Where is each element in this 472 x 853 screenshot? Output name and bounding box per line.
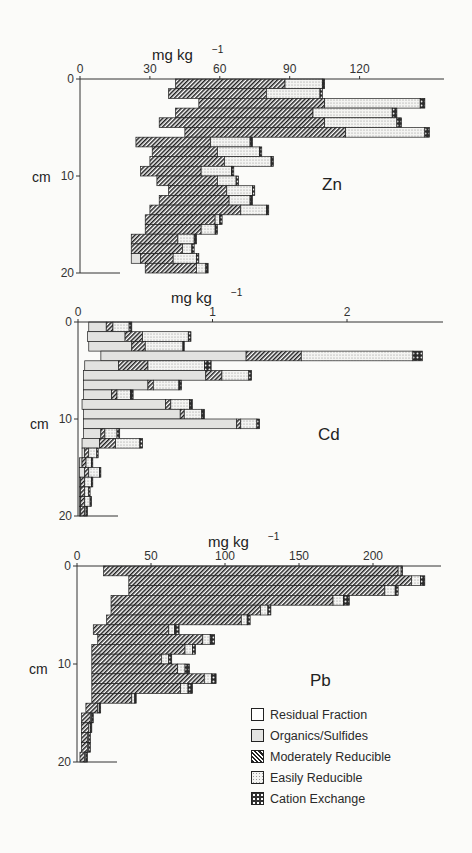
bar-segment <box>81 497 85 507</box>
legend-item-cation-exchange: Cation Exchange <box>251 788 391 809</box>
element-title: Zn <box>322 175 342 194</box>
bar-segment <box>97 448 98 458</box>
bar-segment <box>89 448 97 458</box>
bar-segment <box>179 380 182 390</box>
bar-segment <box>266 205 268 215</box>
bar-segment <box>201 225 215 235</box>
bar-segment <box>92 654 162 664</box>
bar-segment <box>333 595 343 605</box>
depth-axis-label: cm <box>32 169 51 185</box>
y-tick-label: 10 <box>61 169 75 183</box>
y-tick-label: 10 <box>59 412 73 426</box>
bar-segment <box>135 693 136 703</box>
unit-axis-label: mg kg <box>171 289 212 306</box>
bar-segment <box>131 254 140 264</box>
bar-segment <box>175 625 179 635</box>
x-tick-label: 2 <box>344 305 351 319</box>
moderately-reducible-swatch-icon <box>251 750 264 763</box>
bar-segment <box>301 351 413 361</box>
bar-segment <box>112 390 117 400</box>
easily-reducible-swatch-icon <box>251 771 264 784</box>
bar-segment <box>87 332 125 342</box>
unit-axis-label: mg kg <box>152 46 193 63</box>
bar-segment <box>236 176 238 186</box>
bar-segment <box>85 448 89 458</box>
bar-segment <box>93 625 168 635</box>
x-tick-label: 30 <box>143 62 157 76</box>
x-tick-label: 60 <box>213 62 227 76</box>
x-tick-label: 50 <box>144 549 158 563</box>
bar-segment <box>215 215 220 225</box>
bar-segment <box>183 341 184 351</box>
bar-segment <box>150 157 225 167</box>
cd-chart-panel: 01201020cmmg kg−1Cd <box>30 287 443 523</box>
bar-segment <box>204 361 211 371</box>
bar-segment <box>161 654 168 664</box>
bar-segment <box>85 468 89 478</box>
bar-segment <box>159 195 229 205</box>
bar-segment <box>100 468 101 478</box>
organics-swatch-icon <box>251 729 264 742</box>
bar-segment <box>222 371 249 381</box>
bar-segment <box>346 128 425 138</box>
bar-segment <box>385 586 395 596</box>
x-tick-label: 0 <box>74 549 81 563</box>
x-tick-label: 90 <box>283 62 297 76</box>
bar-segment <box>85 487 89 497</box>
bar-segment <box>320 89 322 99</box>
bar-segment <box>91 477 92 487</box>
bar-segment <box>217 147 259 157</box>
bar-segment <box>111 595 333 605</box>
bar-segment <box>257 419 260 429</box>
bar-segment <box>105 429 117 439</box>
legend-item-organics: Organics/Sulfides <box>251 725 391 746</box>
bar-segment <box>173 254 196 264</box>
bar-segment <box>81 477 85 487</box>
x-tick-label: 150 <box>289 549 309 563</box>
bar-segment <box>82 400 165 410</box>
y-tick-label: 20 <box>58 755 72 769</box>
bar-segment <box>89 733 90 743</box>
legend-item-moderately-reducible: Moderately Reducible <box>251 746 391 767</box>
bar-segment <box>192 244 194 254</box>
unit-exponent: −1 <box>231 287 243 298</box>
bar-segment <box>266 89 320 99</box>
bar-segment <box>98 635 203 645</box>
x-tick-label: 200 <box>363 549 383 563</box>
bar-segment <box>212 674 216 684</box>
y-tick-label: 20 <box>61 266 75 280</box>
bar-segment <box>411 576 420 586</box>
bar-segment <box>185 644 192 654</box>
bar-segment <box>159 118 324 128</box>
bar-segment <box>145 263 196 273</box>
x-tick-label: 120 <box>350 62 370 76</box>
bar-segment <box>83 380 148 390</box>
legend-label: Residual Fraction <box>270 708 367 722</box>
x-tick-label: 1 <box>209 305 216 319</box>
y-tick-label: 20 <box>59 509 73 523</box>
y-tick-label: 10 <box>58 657 72 671</box>
bar-segment <box>86 458 91 468</box>
bar-segment <box>145 225 201 235</box>
bar-segment <box>104 566 399 576</box>
bar-segment <box>116 438 140 448</box>
bar-segment <box>82 458 86 468</box>
legend-label: Easily Reducible <box>270 771 362 785</box>
bar-segment <box>145 341 183 351</box>
bar-segment <box>181 684 188 694</box>
bar-segment <box>268 605 271 615</box>
bar-segment <box>148 361 204 371</box>
bar-segment <box>89 487 90 497</box>
bar-segment <box>107 615 242 625</box>
bar-segment <box>215 225 217 235</box>
bar-segment <box>313 108 392 118</box>
bar-segment <box>192 644 195 654</box>
x-tick-label: 0 <box>77 62 84 76</box>
bar-segment <box>220 215 222 225</box>
bar-segment <box>169 89 267 99</box>
bar-segment <box>210 635 214 645</box>
bar-segment <box>79 468 84 478</box>
bar-segment <box>169 625 175 635</box>
bar-segment <box>92 664 178 674</box>
bar-segment <box>169 186 227 196</box>
